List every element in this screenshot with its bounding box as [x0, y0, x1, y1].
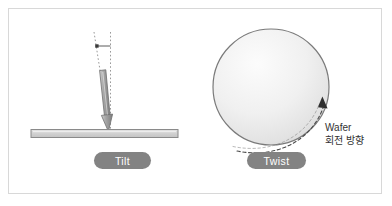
twist-label-text: Twist: [264, 155, 290, 167]
figure-root: Tilt Twist Wafer 회전 방향: [0, 0, 392, 206]
rotation-direction-label: Wafer 회전 방향: [325, 122, 364, 147]
tilt-label-text: Tilt: [115, 155, 130, 167]
tilt-label-pill: Tilt: [94, 152, 151, 169]
wafer-cross-section-bar: [31, 130, 178, 138]
rotation-label-line-1: Wafer: [325, 122, 364, 135]
diagram-canvas: [0, 0, 392, 206]
twist-label-pill: Twist: [247, 152, 306, 169]
tilt-angle-marker-square: [95, 44, 98, 47]
rotation-label-line-2: 회전 방향: [325, 135, 364, 148]
